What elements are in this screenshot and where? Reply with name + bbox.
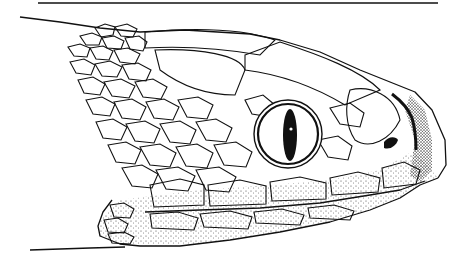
snake-head-illustration [0, 0, 475, 262]
pupil [283, 109, 297, 161]
eye [254, 100, 322, 168]
